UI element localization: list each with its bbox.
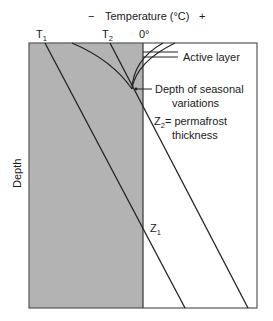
label-thickness: thickness	[172, 129, 218, 141]
seasonal-depth-dot	[135, 88, 138, 91]
label-seasonal-1: Depth of seasonal	[155, 83, 244, 95]
tick-t2: T2	[102, 28, 113, 43]
label-active-layer: Active layer	[183, 51, 240, 63]
frozen-region	[29, 43, 143, 308]
permafrost-diagram: − Temperature (°C) + T1 T2 0° Active lay…	[0, 0, 273, 321]
label-z1: Z1	[150, 222, 161, 237]
label-z2: Z2= permafrost	[154, 115, 227, 130]
axis-title: Temperature (°C)	[105, 10, 189, 22]
tick-zero: 0°	[139, 28, 150, 40]
y-axis-label: Depth	[11, 159, 23, 188]
minus-sign: −	[88, 10, 94, 22]
plus-sign: +	[199, 10, 205, 22]
tick-t1: T1	[36, 28, 47, 43]
label-seasonal-2: variations	[172, 97, 220, 109]
